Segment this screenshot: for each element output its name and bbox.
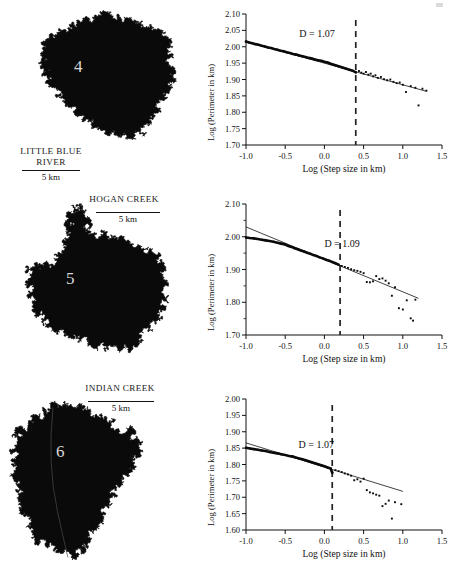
data-point [370, 73, 372, 75]
watershed-name-line: LITTLE BLUE [2, 146, 100, 157]
data-point [344, 472, 346, 474]
data-point [382, 277, 384, 279]
x-tick-label: 1.0 [397, 151, 408, 161]
watershed-name-line: HOGAN CREEK [56, 194, 192, 205]
richardson-plot: 1.701.751.801.851.901.952.002.052.10-1.0… [196, 0, 450, 189]
data-point [363, 73, 365, 75]
data-point [389, 79, 391, 81]
y-tick-label: 1.85 [225, 91, 240, 101]
data-point [375, 494, 377, 496]
figure-panel: 5HOGAN CREEK5 km1.701.801.902.002.10-1.0… [0, 190, 450, 379]
watershed-outline [38, 11, 176, 140]
watershed-name-label: INDIAN CREEK [50, 383, 190, 394]
x-tick-label: 0.5 [358, 151, 369, 161]
y-tick-label: 1.65 [225, 509, 240, 519]
data-point [344, 266, 346, 268]
data-point [391, 295, 393, 297]
data-point [363, 478, 365, 480]
x-axis-label: Log (Step size in km) [246, 353, 442, 364]
data-point [353, 479, 355, 481]
y-axis-label: Log (Perimeter in km) [206, 254, 216, 331]
scale-bar-label: 5 km [62, 402, 180, 414]
y-tick-label: 1.80 [225, 460, 240, 470]
x-tick-label: 0.0 [319, 536, 330, 546]
watershed-number: 4 [74, 58, 83, 75]
data-point [388, 282, 390, 284]
data-point [394, 501, 396, 503]
y-tick-label: 1.75 [225, 124, 240, 134]
data-point [392, 81, 394, 83]
data-point [405, 91, 407, 93]
y-tick-label: 1.90 [225, 265, 240, 275]
data-point [334, 469, 336, 471]
fractal-dimension-label: D = 1.07 [299, 439, 334, 450]
data-point [380, 76, 382, 78]
x-tick-label: 0.5 [358, 341, 369, 351]
data-point [338, 470, 340, 472]
data-point [377, 77, 379, 79]
data-point [410, 317, 412, 319]
data-point [350, 475, 352, 477]
y-tick-label: 1.70 [225, 140, 240, 150]
y-tick-label: 2.10 [225, 199, 240, 209]
data-point [422, 88, 424, 90]
richardson-plot: 1.701.801.902.002.10-1.0-0.50.00.51.01.5… [196, 190, 450, 379]
data-point [372, 75, 374, 77]
data-point [378, 495, 380, 497]
scale-bar: 5 km [62, 401, 180, 414]
y-tick-label: 1.90 [225, 427, 240, 437]
x-tick-label: -0.5 [278, 536, 292, 546]
x-tick-label: 1.0 [397, 341, 408, 351]
y-tick-label: 2.10 [225, 9, 240, 19]
y-tick-label: 2.00 [225, 42, 240, 52]
y-tick-label: 1.80 [225, 107, 240, 117]
watershed-outline [25, 203, 169, 352]
data-point [356, 478, 358, 480]
data-point [383, 78, 385, 80]
scan-artifact [436, 3, 443, 7]
y-tick-label: 1.90 [225, 75, 240, 85]
dense-data-band [246, 448, 332, 473]
x-tick-label: 0.0 [319, 341, 330, 351]
y-tick-label: 2.00 [225, 394, 240, 404]
data-point [385, 503, 387, 505]
scale-bar-label: 5 km [74, 213, 182, 225]
data-point [369, 281, 371, 283]
y-tick-label: 1.70 [225, 330, 240, 340]
x-tick-label: 1.5 [437, 536, 448, 546]
data-point [412, 320, 414, 322]
y-tick-label: 1.80 [225, 297, 240, 307]
x-tick-label: 1.5 [437, 341, 448, 351]
data-point [350, 268, 352, 270]
x-axis-label: Log (Step size in km) [246, 548, 442, 559]
data-point [341, 471, 343, 473]
x-tick-label: 1.5 [437, 151, 448, 161]
watershed-name-line: RIVER [2, 157, 100, 168]
x-tick-label: 1.0 [397, 536, 408, 546]
data-point [369, 491, 371, 493]
x-tick-label: -0.5 [278, 151, 292, 161]
data-point [402, 84, 404, 86]
data-point [360, 271, 362, 273]
data-point [400, 503, 402, 505]
data-point [347, 267, 349, 269]
data-point [372, 492, 374, 494]
richardson-plot: 1.601.651.701.751.801.851.901.952.00-1.0… [196, 385, 450, 574]
data-point [374, 74, 376, 76]
y-tick-label: 1.95 [225, 410, 240, 420]
data-point [414, 87, 416, 89]
y-tick-label: 2.00 [225, 232, 240, 242]
y-tick-label: 1.85 [225, 443, 240, 453]
watershed-number: 6 [56, 443, 65, 460]
data-point [356, 270, 358, 272]
watershed-outline [10, 401, 144, 560]
dense-data-band [246, 42, 356, 73]
data-point [425, 90, 427, 92]
data-point [378, 278, 380, 280]
watershed-map: 5HOGAN CREEK5 km [0, 190, 196, 379]
x-axis-label: Log (Step size in km) [246, 163, 442, 174]
data-point [360, 72, 362, 74]
watershed-number: 5 [66, 270, 75, 287]
data-point [402, 309, 404, 311]
data-point [353, 269, 355, 271]
